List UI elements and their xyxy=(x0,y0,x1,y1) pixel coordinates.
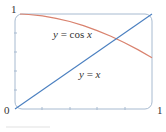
x-max-label: 1 xyxy=(157,105,163,116)
origin-label: 0 xyxy=(4,105,10,116)
identity-annotation: y = x xyxy=(79,69,101,80)
identity-annotation-eq: = xyxy=(84,68,96,80)
faint-caption-bar xyxy=(6,126,50,128)
plot-svg xyxy=(0,0,166,132)
identity-annotation-x: x xyxy=(96,68,101,80)
cos-annotation: y = cos x xyxy=(53,29,92,40)
y-max-label: 1 xyxy=(11,4,17,15)
cos-annotation-x: x xyxy=(87,28,92,40)
cos-annotation-eq: = cos xyxy=(58,28,87,40)
